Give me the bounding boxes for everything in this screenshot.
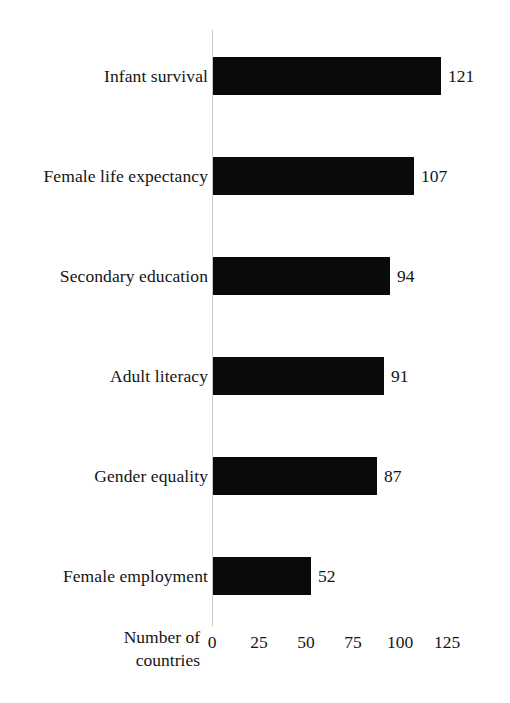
x-tick-25: 25 — [250, 632, 268, 653]
x-tick-0: 0 — [208, 632, 217, 653]
bar-row: Infant survival 121 — [0, 57, 510, 95]
bar-secondary-education[interactable] — [213, 257, 390, 295]
category-label-infant-survival: Infant survival — [104, 66, 208, 87]
x-tick-125: 125 — [434, 632, 460, 653]
y-axis-line — [212, 30, 213, 626]
bar-row: Secondary education 94 — [0, 257, 510, 295]
bar-value-infant-survival: 121 — [448, 66, 474, 87]
category-label-adult-literacy: Adult literacy — [110, 366, 208, 387]
bar-value-adult-literacy: 91 — [391, 366, 409, 387]
x-tick-50: 50 — [297, 632, 315, 653]
x-axis-title-line-1: Number of — [30, 626, 200, 649]
category-label-gender-equality: Gender equality — [94, 466, 208, 487]
bar-adult-literacy[interactable] — [213, 357, 384, 395]
bar-female-life-expectancy[interactable] — [213, 157, 414, 195]
bar-value-female-employment: 52 — [318, 566, 336, 587]
category-label-female-life-expectancy: Female life expectancy — [44, 166, 208, 187]
bar-chart: Infant survival 121 Female life expectan… — [0, 0, 510, 703]
category-label-female-employment: Female employment — [63, 566, 208, 587]
bar-value-female-life-expectancy: 107 — [421, 166, 447, 187]
x-axis: Number of countries 0 25 50 75 100 125 — [0, 626, 510, 686]
x-axis-title: Number of countries — [30, 626, 200, 672]
bar-row: Female life expectancy 107 — [0, 157, 510, 195]
category-label-secondary-education: Secondary education — [60, 266, 208, 287]
x-axis-title-line-2: countries — [30, 649, 200, 672]
x-tick-75: 75 — [344, 632, 362, 653]
bar-female-employment[interactable] — [213, 557, 311, 595]
bar-row: Female employment 52 — [0, 557, 510, 595]
bar-row: Gender equality 87 — [0, 457, 510, 495]
x-tick-100: 100 — [387, 632, 413, 653]
bar-row: Adult literacy 91 — [0, 357, 510, 395]
bar-gender-equality[interactable] — [213, 457, 377, 495]
bar-value-gender-equality: 87 — [384, 466, 402, 487]
bar-value-secondary-education: 94 — [397, 266, 415, 287]
bar-infant-survival[interactable] — [213, 57, 441, 95]
plot-area: Infant survival 121 Female life expectan… — [0, 0, 510, 703]
